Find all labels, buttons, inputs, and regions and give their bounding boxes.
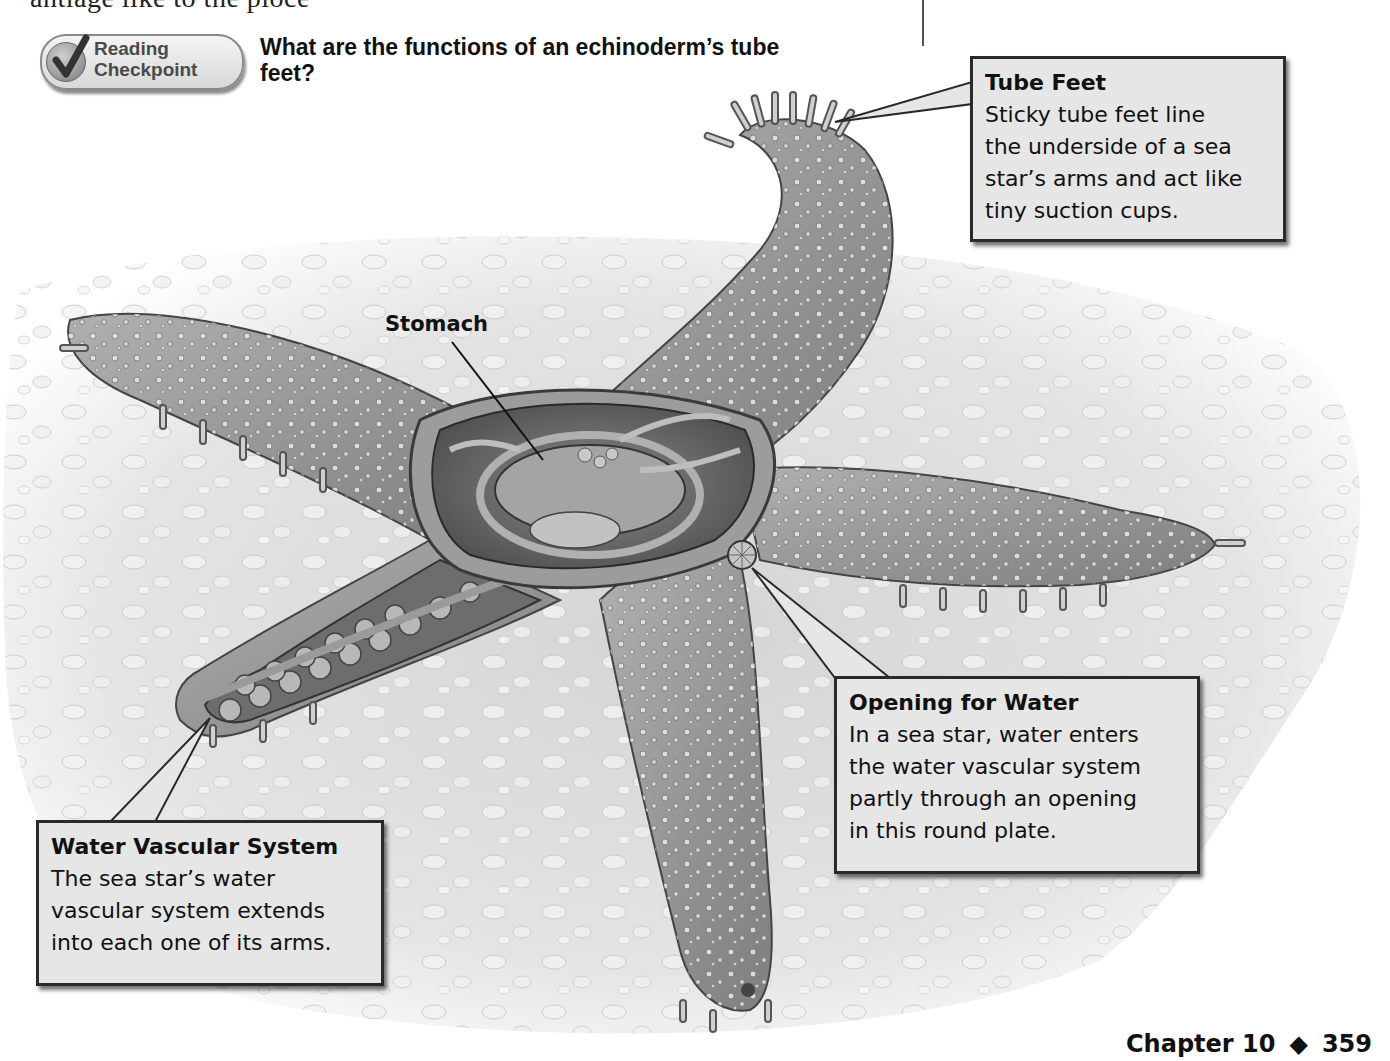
badge-line-1: Reading [94,38,197,59]
callout-text: In a sea star, water enters the water va… [849,719,1185,847]
callout-text: Sticky tube feet line the underside of a… [985,99,1271,227]
page-footer: Chapter 10 ◆ 359 [1126,1030,1372,1058]
checkpoint-question: What are the functions of an echinoderm’… [260,34,820,86]
reading-checkpoint: Reading Checkpoint What are the function… [40,34,820,90]
badge-line-2: Checkpoint [94,59,197,80]
madreporite [728,541,756,569]
chapter-label: Chapter 10 [1126,1030,1275,1058]
badge-label: Reading Checkpoint [94,38,197,80]
tube-feet-pointer [835,82,972,122]
callout-tube-feet: Tube Feet Sticky tube feet line the unde… [970,56,1286,242]
checkmark-icon [48,32,92,84]
reading-checkpoint-badge: Reading Checkpoint [40,34,244,90]
callout-opening-for-water: Opening for Water In a sea star, water e… [834,676,1200,874]
page-number: 359 [1322,1030,1372,1058]
callout-title: Opening for Water [849,687,1185,719]
diamond-separator-icon: ◆ [1289,1030,1307,1058]
callout-title: Tube Feet [985,67,1271,99]
stomach-label: Stomach [385,312,488,336]
callout-water-vascular-system: Water Vascular System The sea star’s wat… [36,820,384,986]
callout-text: The sea star’s water vascular system ext… [51,863,369,959]
callout-title: Water Vascular System [51,831,369,863]
central-disk [410,390,774,588]
